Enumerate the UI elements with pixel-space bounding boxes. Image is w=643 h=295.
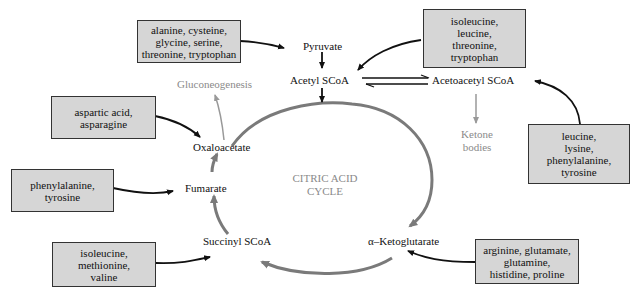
label-fumarate: Fumarate	[185, 182, 227, 194]
box-line: tyrosine	[547, 166, 611, 178]
box-line: leucine,	[451, 27, 499, 39]
label-succinyl-scoa: Succinyl SCoA	[203, 235, 271, 247]
box-to-acetoacetyl-scoa: leucine, lysine, phenylalanine, tyrosine	[528, 124, 630, 184]
box-line: arginine, glutamate,	[483, 244, 570, 256]
ketone-line: Ketone	[460, 128, 494, 141]
box-line: alanine, cysteine,	[142, 24, 237, 36]
label-acetoacetyl-scoa: Acetoacetyl SCoA	[432, 74, 514, 86]
cycle-title-line: CITRIC ACID	[280, 172, 370, 185]
box-to-fumarate: phenylalanine, tyrosine	[11, 169, 114, 212]
box-to-succinyl-scoa: isoleucine, methionine, valine	[52, 242, 156, 287]
label-pyruvate: Pyruvate	[303, 40, 342, 52]
label-ketone-bodies: Ketone bodies	[460, 128, 494, 154]
box-line: tryptophan	[451, 51, 499, 63]
box-to-acetyl-scoa: isoleucine, leucine, threonine, tryptoph…	[423, 9, 526, 68]
box-to-pyruvate: alanine, cysteine, glycine, serine, thre…	[137, 20, 241, 63]
box-line: valine	[78, 271, 130, 283]
box-line: histidine, proline	[483, 268, 570, 280]
box-line: asparagine	[74, 118, 132, 130]
box-line: threonine,	[451, 39, 499, 51]
label-gluconeogenesis: Gluconeogenesis	[177, 78, 252, 90]
ketone-line: bodies	[460, 141, 494, 154]
box-line: glycine, serine,	[142, 36, 237, 48]
box-to-oxaloacetate: aspartic acid, asparagine	[51, 96, 156, 139]
box-to-alpha-ketoglutarate: arginine, glutamate, glutamine, histidin…	[475, 239, 579, 284]
label-oxaloacetate: Oxaloacetate	[193, 141, 250, 153]
cycle-title-line: CYCLE	[280, 185, 370, 198]
box-line: isoleucine,	[78, 247, 130, 259]
label-acetyl-scoa: Acetyl SCoA	[290, 74, 349, 86]
box-line: phenylalanine,	[547, 154, 611, 166]
box-line: methionine,	[78, 259, 130, 271]
box-line: leucine,	[547, 130, 611, 142]
box-line: glutamine,	[483, 256, 570, 268]
box-line: lysine,	[547, 142, 611, 154]
label-alpha-ketoglutarate: α–Ketoglutarate	[368, 235, 439, 247]
amino-acid-catabolism-diagram: alanine, cysteine, glycine, serine, thre…	[0, 0, 643, 295]
box-line: aspartic acid,	[74, 106, 132, 118]
box-line: isoleucine,	[451, 15, 499, 27]
box-line: threonine, tryptophan	[142, 48, 237, 60]
box-line: tyrosine	[30, 191, 94, 203]
cycle-title: CITRIC ACID CYCLE	[280, 172, 370, 198]
box-line: phenylalanine,	[30, 179, 94, 191]
